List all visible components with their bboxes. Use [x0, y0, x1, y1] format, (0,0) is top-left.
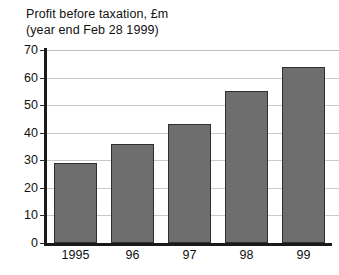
- y-axis-tick-label: 60: [2, 72, 38, 84]
- bar-chart-figure: Profit before taxation, £m (year end Feb…: [0, 0, 339, 275]
- y-axis-tick-label: 70: [2, 44, 38, 56]
- bar-slot: [161, 50, 218, 243]
- y-axis-tick-label: 20: [2, 182, 38, 194]
- x-axis-tick-label: 99: [275, 248, 332, 262]
- bar-slot: [47, 50, 104, 243]
- x-axis-tick-label: 96: [104, 248, 161, 262]
- x-axis-tick-label: 98: [218, 248, 275, 262]
- bar-97[interactable]: [168, 124, 211, 243]
- page-title: Profit before taxation, £m: [26, 6, 326, 22]
- chart-subtitle: (year end Feb 28 1999): [26, 22, 326, 38]
- bar-99[interactable]: [282, 67, 325, 243]
- y-axis-tick-label: 10: [2, 209, 38, 221]
- bar-98[interactable]: [225, 91, 268, 243]
- y-tick-70: [40, 50, 45, 51]
- y-tick-50: [40, 105, 45, 106]
- y-axis-tick-label: 40: [2, 127, 38, 139]
- y-axis-tick-label: 30: [2, 154, 38, 166]
- bar-slot: [218, 50, 275, 243]
- y-tick-10: [40, 215, 45, 216]
- x-axis-tick-label: 97: [161, 248, 218, 262]
- y-axis-labels: 010203040506070: [0, 0, 38, 275]
- bars-layer: [47, 50, 332, 243]
- bar-96[interactable]: [111, 144, 154, 243]
- y-tick-0: [40, 243, 45, 244]
- x-axis-line: [44, 243, 332, 246]
- y-tick-60: [40, 78, 45, 79]
- y-axis-tick-label: 0: [2, 237, 38, 249]
- y-tick-20: [40, 188, 45, 189]
- bar-1995[interactable]: [54, 163, 97, 243]
- y-tick-30: [40, 160, 45, 161]
- bar-slot: [104, 50, 161, 243]
- bar-slot: [275, 50, 332, 243]
- x-axis-labels: 199596979899: [47, 248, 332, 268]
- x-axis-tick-label: 1995: [47, 248, 104, 262]
- y-tick-40: [40, 133, 45, 134]
- y-axis-tick-label: 50: [2, 99, 38, 111]
- chart-title-block: Profit before taxation, £m (year end Feb…: [26, 6, 326, 38]
